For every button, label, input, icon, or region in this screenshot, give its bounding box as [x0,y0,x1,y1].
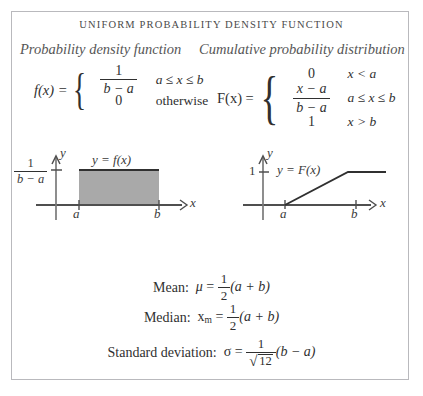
cdf-brace-icon: { [260,76,278,119]
cdf-formula-lhs: F(x) = [217,90,254,107]
median-label: Median: [144,310,191,326]
pdf-cases: 1 b − a a ≤ x ≤ b 0 otherwise [90,69,208,111]
cdf-cases: 0 x < a x − a b − a a ≤ x ≤ b 1 x > b [284,62,396,134]
mean-frac-denominator: 2 [218,288,231,303]
mean-label: Mean: [153,280,189,296]
cdf-case2-numerator: x − a [293,81,329,98]
standard-deviation-row: Standard deviation:σ = 1 √12 (b − a) [0,337,423,369]
median-frac-numerator: 1 [227,302,240,318]
median-frac-denominator: 2 [227,318,240,333]
mean-equals: = [206,279,214,294]
cdf-formula: F(x) ={ 0 x < a x − a b − a a ≤ x ≤ b 1 … [217,62,395,134]
pdf-brace-icon: { [73,74,86,106]
pdf-formula: f(x) ={ 1 b − a a ≤ x ≤ b 0 otherwise [34,69,208,111]
pdf-formula-lhs: f(x) = [34,82,68,99]
cdf-column-heading: Cumulative probability distribution [199,41,405,58]
pdf-x-tick-label-b: b [154,206,161,222]
median-symbol: x [198,309,205,324]
cdf-case1-condition: x < a [348,66,377,82]
cdf-case1-value: 0 [284,66,340,82]
mean-row: Mean:μ = 1 2 (a + b) [0,272,423,303]
cdf-graph: y x y = F(x) 1 a b [238,148,403,228]
cdf-y-tick-label: 1 [249,163,256,179]
pdf-shaded-region [79,170,159,205]
cdf-graph-svg [238,148,403,228]
median-equals: = [215,309,223,324]
cdf-x-tick-label-b: b [351,206,358,222]
sd-radicand: 12 [258,354,273,369]
cdf-curve-label: y = F(x) [277,162,320,178]
median-tail: (a + b) [239,309,279,324]
median-subscript: m [205,315,212,325]
standard-deviation-tail: (b − a) [276,344,316,359]
pdf-case1-numerator: 1 [100,63,136,80]
pdf-case1-condition: a ≤ x ≤ b [156,72,204,88]
cdf-case2-condition: a ≤ x ≤ b [348,90,396,106]
pdf-column-heading: Probability density function [20,41,181,58]
pdf-case-row: 0 otherwise [90,90,208,111]
pdf-x-axis-label: x [190,195,196,211]
pdf-case-value: 1 b − a [90,63,148,96]
cdf-x-axis-label: x [380,195,386,211]
pdf-y-tick-numerator: 1 [14,157,47,172]
cdf-case2-value: x − a b − a [284,81,340,114]
pdf-y-tick-denominator: b − a [14,172,47,187]
standard-deviation-symbol: σ [224,344,232,359]
median-expression: xm = 1 2 (a + b) [198,302,280,333]
cdf-case3-condition: x > b [348,114,377,130]
mean-tail: (a + b) [230,279,270,294]
pdf-y-tick-label: 1 b − a [14,157,47,186]
pdf-case-row: 1 b − a a ≤ x ≤ b [90,69,208,90]
mean-expression: μ = 1 2 (a + b) [196,272,270,303]
figure-page: UNIFORM PROBABILITY DENSITY FUNCTION Pro… [0,0,423,396]
standard-deviation-equals: = [235,344,243,359]
pdf-graph: y x y = f(x) a b 1 b − a [24,148,204,228]
pdf-curve-label: y = f(x) [92,152,131,168]
cdf-case-row: x − a b − a a ≤ x ≤ b [284,86,396,110]
cdf-case-row: 1 x > b [284,110,396,134]
cdf-case2-denominator: b − a [293,99,329,115]
median-row: Median:xm = 1 2 (a + b) [0,302,423,333]
sd-frac-denominator: √12 [246,353,276,369]
cdf-x-tick-label-a: a [280,206,287,222]
pdf-case2-condition: otherwise [156,93,208,109]
figure-title: UNIFORM PROBABILITY DENSITY FUNCTION [0,19,423,30]
mean-symbol: μ [196,279,203,294]
cdf-y-axis-label: y [267,145,273,161]
standard-deviation-label: Standard deviation: [108,345,217,361]
pdf-x-tick-label-a: a [73,206,80,222]
cdf-case3-value: 1 [284,114,340,130]
mean-frac-numerator: 1 [218,272,231,288]
radical-icon: √ [249,353,257,369]
pdf-case2-value: 0 [90,93,148,109]
pdf-y-axis-label: y [60,145,66,161]
sd-frac-numerator: 1 [246,337,276,353]
standard-deviation-expression: σ = 1 √12 (b − a) [224,337,316,369]
